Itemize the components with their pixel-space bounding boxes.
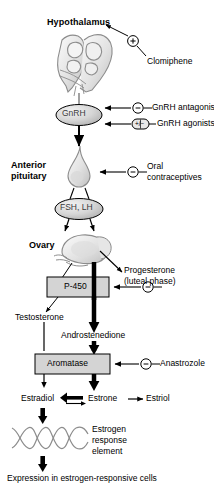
progesterone-arrow <box>100 251 122 272</box>
clomiphene-connector <box>137 46 146 56</box>
estradiol-label: Estradiol <box>21 394 54 404</box>
fsh-lh-label: FSH, LH <box>60 203 93 213</box>
gnrh-antagonists-label: GnRH antagonists <box>152 103 214 113</box>
estrone-input-arrowhead <box>89 381 100 391</box>
ere-label-line3: element <box>92 447 122 457</box>
hypothalamus-label: Hypothalamus <box>47 17 110 27</box>
estriol-label: Estriol <box>146 394 170 404</box>
ovary-to-p450-connector <box>62 263 72 278</box>
anterior-pituitary-illustration <box>68 146 90 187</box>
hypothalamus-illustration <box>58 35 113 96</box>
ovary-illustration <box>54 235 111 266</box>
expression-label: Expression in estrogen-responsive cells <box>7 474 157 484</box>
aromatase-label: Aromatase <box>47 359 88 369</box>
fshlh-to-ovary-arrows <box>65 219 94 231</box>
anterior-pituitary-label-line2: pituitary <box>11 171 47 181</box>
p450-label: P-450 <box>64 282 87 292</box>
gnrh-label: GnRH <box>62 109 86 119</box>
ere-label-line2: response <box>92 436 127 446</box>
pathway-diagram: Hypothalamus Clomiphene GnRH GnRH antago… <box>0 0 214 488</box>
plus-circle-icon <box>128 36 139 47</box>
minus-circle-icon-oral-contraceptives <box>128 167 138 177</box>
ere-to-expression-arrow <box>38 456 47 472</box>
progesterone-label-line2: (luteal phase) <box>124 277 176 287</box>
oral-contraceptives-label-line1: Oral <box>147 162 163 172</box>
pituitary-to-fshlh-connectors <box>70 188 89 199</box>
estrone-to-estradiol-reversible-arrows <box>60 392 86 405</box>
ovary-label: Ovary <box>29 240 55 250</box>
estrone-label: Estrone <box>88 394 117 404</box>
minus-circle-icon-anastrozole <box>141 359 151 369</box>
testosterone-label: Testosterone <box>15 313 64 323</box>
dna-helix-illustration <box>12 427 88 449</box>
anastrozole-label: Anastrozole <box>160 359 205 369</box>
gnrh-agonists-label: GnRH agonists <box>157 119 214 129</box>
estradiol-to-ere-arrow <box>38 408 47 424</box>
estradiol-input-arrowhead <box>41 382 46 388</box>
clomiphene-label: Clomiphene <box>147 57 192 67</box>
plus-minus-symbol: +/− <box>135 120 144 127</box>
oral-contraceptives-label-line2: contraceptives <box>147 173 202 183</box>
anterior-pituitary-label-line1: Anterior <box>11 160 46 170</box>
androstenedione-label: Androstenedione <box>61 331 125 341</box>
minus-circle-icon-antagonist <box>133 103 143 113</box>
progesterone-label-line1: Progesterone <box>124 266 175 276</box>
p450-to-testosterone-arrow <box>46 297 58 312</box>
ere-label-line1: Estrogen <box>92 425 126 435</box>
